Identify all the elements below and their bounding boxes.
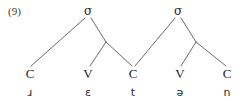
phoneme-t: t xyxy=(131,87,135,98)
branch-rime1-coda xyxy=(106,42,132,66)
skeletal-slot-v2: V xyxy=(175,67,184,80)
branch-rime2-coda xyxy=(196,42,226,66)
branch-sigma1-onset xyxy=(31,18,85,66)
branch-rime1-nucleus xyxy=(90,42,106,66)
skeletal-slot-c3: C xyxy=(223,67,232,80)
skeletal-slot-c1: C xyxy=(26,67,35,80)
phoneme-schwa: ə xyxy=(177,87,184,98)
branch-sigma2-rime xyxy=(181,18,196,42)
phoneme-n: n xyxy=(224,87,231,98)
sigma-node-1: σ xyxy=(84,5,92,17)
syllable-tree-figure: (9) σσ CVCVC ɹɛtən xyxy=(0,0,246,101)
skeletal-slot-c2: C xyxy=(129,67,138,80)
sigma-node-2: σ xyxy=(174,5,182,17)
phoneme-r: ɹ xyxy=(28,87,33,98)
branch-sigma2-onset xyxy=(135,18,175,66)
branch-sigma1-rime xyxy=(91,18,106,42)
skeletal-slot-v1: V xyxy=(83,67,92,80)
branch-rime2-nucleus xyxy=(181,42,196,66)
tree-branches-canvas xyxy=(0,0,246,101)
phoneme-epsilon: ɛ xyxy=(85,87,91,98)
